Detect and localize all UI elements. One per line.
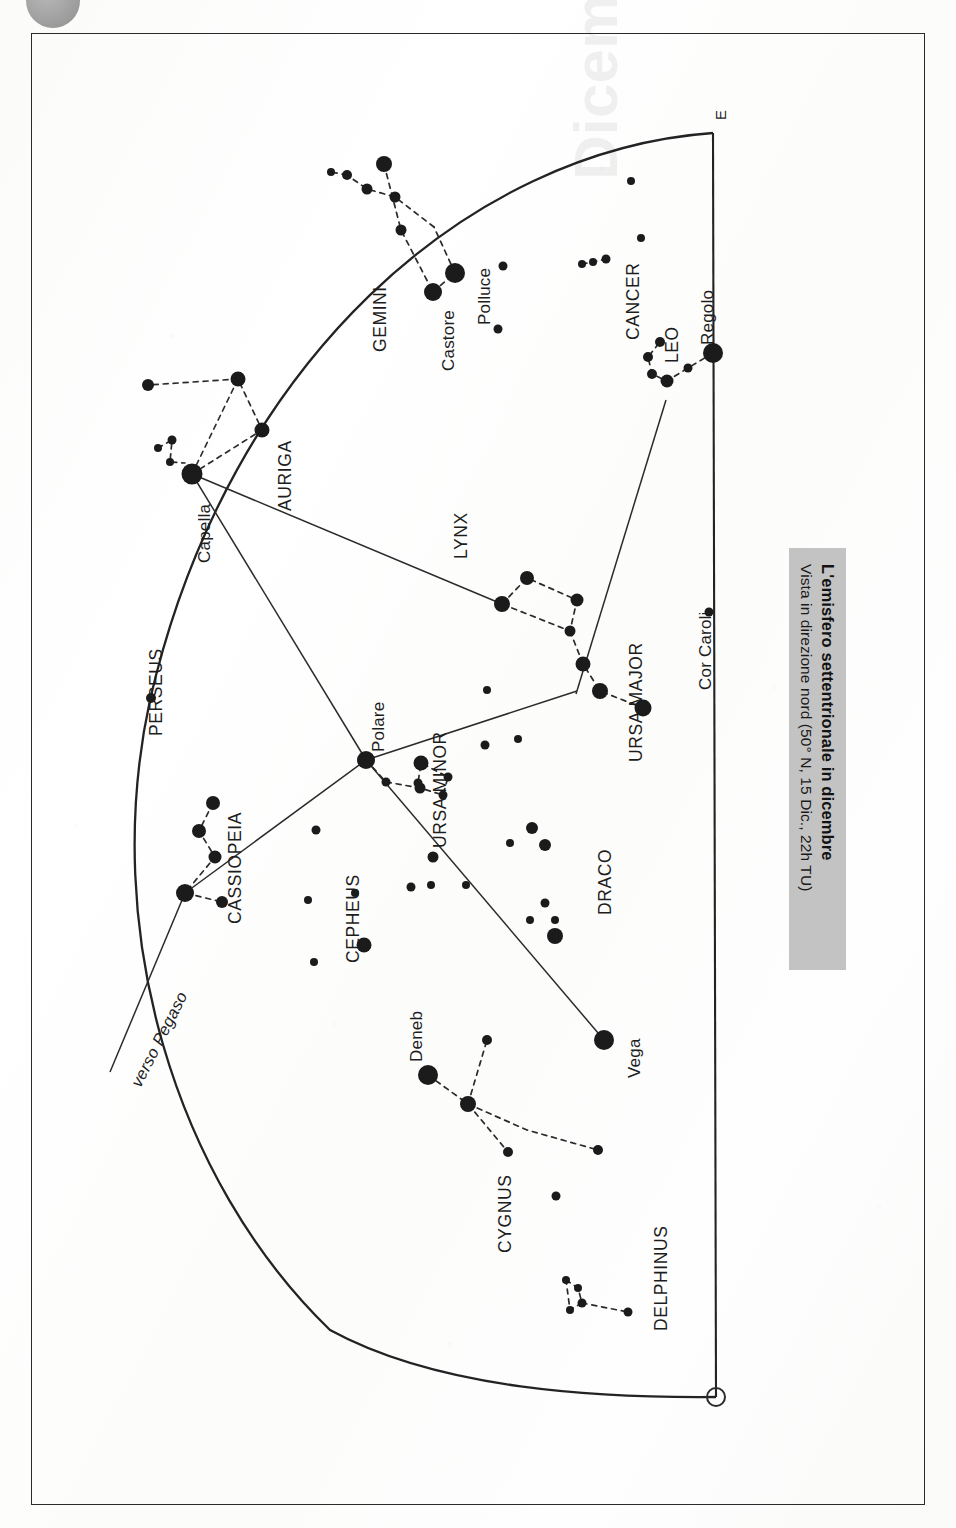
caption-text-group: L'emisfero settentrionale in dicembre Vi…: [789, 548, 846, 970]
star-ursaminor-1: [382, 778, 391, 787]
star-cepheus-5: [310, 958, 318, 966]
star-draco-7: [551, 916, 559, 924]
star-auriga-2: [255, 423, 270, 438]
star-draco-5: [541, 899, 550, 908]
pointer-verso-pegaso: [110, 893, 185, 1072]
auriga-line-2: [148, 379, 238, 385]
star-delphinus-1: [562, 1276, 570, 1284]
star-cygnus-4: [593, 1145, 603, 1155]
star-gemini-1: [376, 156, 392, 172]
star-draco-9: [462, 881, 470, 889]
horizon-line: [713, 133, 716, 1397]
star-cassiopeia-3: [209, 851, 222, 864]
star-draco-6: [526, 916, 534, 924]
star-regolo: [703, 343, 723, 363]
star-cygnus-2: [503, 1147, 513, 1157]
delphinus-tail: [582, 1303, 628, 1312]
constellation-lines: [148, 164, 713, 1312]
star-capella: [182, 464, 203, 485]
ursamajor-bowl: [502, 578, 577, 631]
star-ursaminor-3: [439, 791, 448, 800]
star-ursamajor-7: [635, 700, 652, 717]
star-cassiopeia-5: [216, 896, 228, 908]
star-ursamajor-6: [592, 683, 608, 699]
star-vega: [594, 1030, 614, 1050]
star-gemini-4: [362, 184, 373, 195]
leo-line: [648, 342, 713, 381]
pointer-polare-vega: [366, 760, 604, 1040]
star-gemini-8: [494, 325, 503, 334]
star-leo-4: [643, 352, 653, 362]
star-ursamajor-2: [520, 571, 534, 585]
star-castore: [424, 283, 442, 301]
star-deneb: [418, 1065, 438, 1085]
pointer-lines: [110, 400, 666, 1072]
star-cepheus-6: [428, 852, 439, 863]
cygnus-line-1: [428, 1075, 508, 1152]
star-cygnus-3: [482, 1035, 492, 1045]
caption-title: L'emisfero settentrionale in dicembre: [819, 564, 838, 970]
star-cor-caroli: [705, 608, 714, 617]
star-leo-5: [655, 337, 665, 347]
star-perseus-4: [146, 693, 156, 703]
star-draco-3: [539, 839, 551, 851]
pointer-ursamajor-leo: [576, 400, 666, 694]
gemini-line-4: [347, 175, 434, 227]
caption-subtitle: Vista in direzione nord (50° N, 15 Dic.,…: [798, 564, 816, 970]
stars: [142, 156, 723, 1317]
auriga-line: [192, 379, 262, 474]
star-leo-1: [684, 364, 693, 373]
pointer-polare-cassiopeia: [185, 760, 366, 893]
star-cepheus-1: [312, 826, 321, 835]
star-cancer-5: [578, 260, 586, 268]
star-delphinus-3: [578, 1299, 587, 1308]
star-ursaminor-8: [481, 741, 490, 750]
star-draco-8: [547, 928, 563, 944]
star-ursamajor-1: [494, 596, 510, 612]
star-gemini-6: [327, 168, 335, 176]
star-delphinus-4: [566, 1306, 574, 1314]
star-auriga-3: [142, 379, 154, 391]
star-cassiopeia-2: [192, 824, 206, 838]
star-ursaminor-4: [444, 773, 453, 782]
star-ursamajor-4: [565, 626, 576, 637]
star-gemini-7: [499, 262, 508, 271]
star-gemini-5: [342, 170, 352, 180]
star-ursamajor-3: [571, 594, 584, 607]
ursaminor-line: [366, 760, 448, 795]
star-draco-4: [506, 839, 514, 847]
star-gemini-2: [396, 225, 407, 236]
cygnus-line-3: [468, 1040, 487, 1104]
star-perseus-3: [166, 458, 174, 466]
gemini-line-1: [384, 164, 433, 292]
star-cepheus-2: [304, 896, 312, 904]
pointer-capella-ursamajor: [192, 474, 502, 604]
star-ursamajor-5: [576, 657, 591, 672]
pointer-polare-ursamajor: [366, 691, 577, 760]
star-perseus-2: [168, 436, 177, 445]
star-ursaminor-6: [414, 779, 423, 788]
star-ursaminor-5: [414, 756, 429, 771]
star-cancer-1: [627, 177, 635, 185]
star-cancer-3: [602, 255, 611, 264]
star-polare: [357, 751, 375, 769]
star-cancer-4: [589, 258, 597, 266]
star-draco-1: [514, 735, 522, 743]
star-cepheus-8: [427, 881, 435, 889]
pointer-capella-polare: [192, 474, 366, 760]
star-cepheus-7: [407, 883, 416, 892]
star-ursaminor-7: [483, 686, 491, 694]
star-cepheus-4: [357, 938, 372, 953]
star-auriga-1: [231, 372, 246, 387]
star-cancer-2: [637, 234, 645, 242]
star-cygnus-1: [460, 1096, 476, 1112]
star-cepheus-3: [351, 889, 359, 897]
star-polluce: [445, 263, 465, 283]
star-cassiopeia-4: [176, 884, 194, 902]
star-gemini-3: [390, 192, 401, 203]
star-leo-2: [661, 375, 674, 388]
star-delphinus-2: [574, 1284, 582, 1292]
star-leo-3: [647, 369, 657, 379]
star-delphinus-5: [624, 1308, 633, 1317]
star-perseus-1: [154, 444, 162, 452]
